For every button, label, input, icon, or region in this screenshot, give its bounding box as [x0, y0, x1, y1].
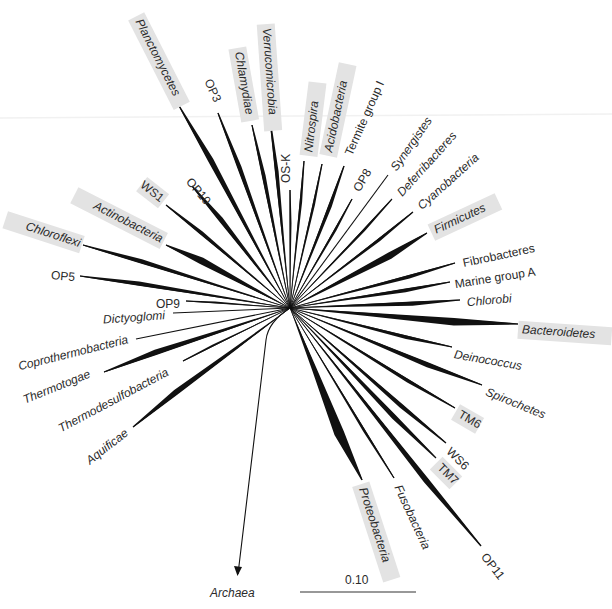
taxon-label-proteobacteria: Proteobacteria: [352, 481, 400, 582]
taxon-label-thermotogae: Thermotogae: [21, 367, 93, 407]
taxon-label-op9: OP9: [156, 297, 180, 311]
taxon-name: OP8: [350, 166, 374, 194]
taxon-name: Spirochetes: [484, 385, 548, 422]
taxon-name: Planctomycetes: [133, 16, 184, 98]
taxon-label-bacteroidetes: Bacteroidetes: [517, 321, 612, 345]
taxon-name: Chloroflexi: [24, 219, 83, 250]
taxon-label-chloroflexi: Chloroflexi: [2, 211, 84, 253]
taxon-name: Thermotogae: [21, 367, 93, 407]
taxon-label-os-k: OS-K: [279, 154, 293, 183]
scale-bar-label: 0.10: [345, 573, 369, 587]
taxon-label-op10: OP10: [183, 175, 214, 208]
taxon-name: Chlorobi: [466, 291, 512, 309]
taxon-label-deinococcus: Deinococcus: [453, 347, 523, 373]
taxon-name: Deinococcus: [453, 347, 523, 373]
taxon-name: OP5: [51, 268, 76, 284]
taxon-label-firmicutes: Firmicutes: [428, 193, 503, 241]
taxon-label-planctomycetes: Planctomycetes: [128, 12, 190, 110]
taxon-label-verrucomicrobia: Verrucomicrobia: [257, 23, 282, 131]
taxon-name: OS-K: [279, 154, 293, 183]
taxon-label-op8: OP8: [350, 166, 374, 194]
taxon-name: Coprothermobacteria: [17, 332, 130, 373]
taxon-label-coprothermobacteria: Coprothermobacteria: [17, 332, 130, 373]
root-label-archaea: Archaea: [209, 586, 255, 600]
taxon-label-chlorobi: Chlorobi: [466, 291, 512, 309]
branch-dictyoglomi: [173, 308, 290, 313]
arrow-head-icon: [234, 566, 242, 576]
taxon-label-fusobacteria: Fusobacteria: [391, 483, 433, 552]
taxon-label-chlamydiae: Chlamydiae: [228, 46, 259, 122]
taxon-name: Fusobacteria: [391, 483, 433, 552]
phylogenetic-tree: PlanctomycetesOP3ChlamydiaeVerrucomicrob…: [0, 0, 612, 609]
taxon-label-op3: OP3: [201, 77, 224, 105]
taxon-label-aquificae: Aquificae: [82, 426, 131, 468]
taxon-label-op11: OP11: [478, 550, 508, 582]
taxon-name: OP11: [478, 550, 508, 582]
taxon-name: OP9: [156, 297, 180, 311]
taxon-label-ws1: WS1: [136, 177, 169, 208]
root-branch: [238, 308, 290, 574]
taxon-name: OP3: [201, 77, 224, 105]
taxon-name: Aquificae: [82, 426, 131, 468]
taxon-name: OP10: [183, 175, 214, 208]
taxon-label-spirochetes: Spirochetes: [484, 385, 548, 422]
taxon-label-tm6: TM6: [451, 404, 485, 434]
labels-group: PlanctomycetesOP3ChlamydiaeVerrucomicrob…: [2, 12, 612, 582]
taxon-label-op5: OP5: [51, 268, 76, 284]
